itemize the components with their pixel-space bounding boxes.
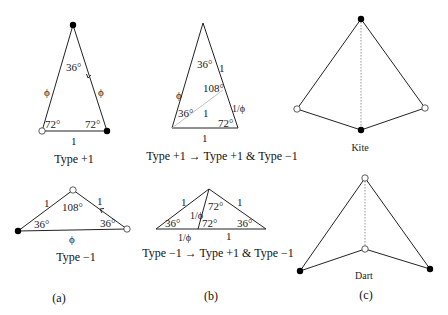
right-angle: 36° xyxy=(100,217,115,229)
base-right: 1 xyxy=(226,230,232,242)
inner-angle: 108° xyxy=(203,82,224,94)
left-side: 1 xyxy=(181,196,187,208)
type-plus-caption: Type +1 xyxy=(54,152,94,166)
right-side: 1 xyxy=(97,195,103,207)
type-plus-subdivision: 36° 1 ϕ 108° 36° 1 1/ϕ 72° 1 Type +1 → T… xyxy=(146,23,298,163)
mid-angle: 72° xyxy=(202,217,217,229)
right-lower-side: 1/ϕ xyxy=(232,103,245,114)
type-minus-subdivision: 1 1 72° 1/ϕ 36° 72° 36° 1/ϕ 1 Type −1 → … xyxy=(142,189,294,260)
bottom-subdivision-caption: Type −1 → Type +1 & Type −1 xyxy=(142,246,294,260)
right-angle: 36° xyxy=(237,217,252,229)
left-side: ϕ xyxy=(44,86,50,98)
dart-shape: Dart xyxy=(297,175,433,281)
left-angle: 72° xyxy=(45,118,60,130)
panel-a-label: (a) xyxy=(52,291,65,305)
type-minus-caption: Type −1 xyxy=(56,250,96,264)
base-length: 1 xyxy=(71,135,77,147)
type-minus-one-triangle: 108° 36° 36° 1 1 ϕ Type −1 xyxy=(15,187,130,264)
type-plus-one-triangle: 36° 72° 72° ϕ ϕ 1 Type +1 xyxy=(39,22,110,166)
apex-angle: 36° xyxy=(197,58,212,70)
panel-b-label: (b) xyxy=(204,289,218,303)
left-side: ϕ xyxy=(176,89,182,101)
diagonal-length: 1 xyxy=(203,107,209,119)
left-angle: 36° xyxy=(178,107,193,119)
base-length: 1 xyxy=(202,132,208,144)
penrose-tiling-diagram: 36° 72° 72° ϕ ϕ 1 Type +1 108° 36° 36° 1… xyxy=(0,0,448,315)
left-angle: 36° xyxy=(34,218,49,230)
left-side: 1 xyxy=(44,197,50,209)
base-left: 1/ϕ xyxy=(178,232,191,243)
apex-angle: 36° xyxy=(66,61,81,73)
panel-c-label: (c) xyxy=(359,288,372,302)
left-angle: 36° xyxy=(165,217,180,229)
right-angle: 72° xyxy=(218,117,233,129)
apex-left-angle: 72° xyxy=(208,200,223,212)
right-upper-side: 1 xyxy=(219,62,225,74)
apex-angle: 108° xyxy=(62,201,83,213)
base-length: ϕ xyxy=(69,233,75,245)
right-angle: 72° xyxy=(85,118,100,130)
right-side: 1 xyxy=(237,196,243,208)
kite-shape: Kite xyxy=(294,16,428,153)
right-side: ϕ xyxy=(98,86,104,98)
dart-caption: Dart xyxy=(355,270,373,281)
top-subdivision-caption: Type +1 → Type +1 & Type −1 xyxy=(146,149,298,163)
kite-caption: Kite xyxy=(351,142,369,153)
